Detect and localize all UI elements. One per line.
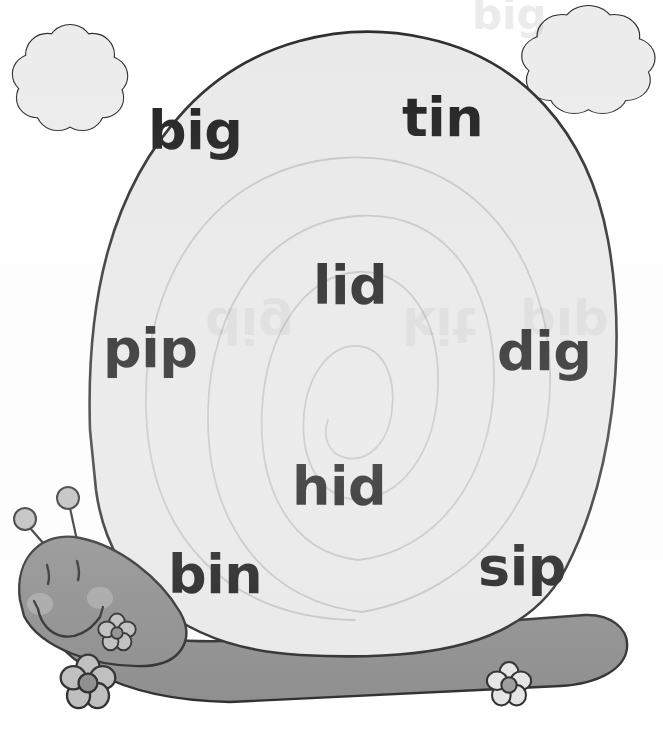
cheek-left <box>27 593 53 615</box>
antenna-right-ball <box>57 487 79 509</box>
shell-word-bin: bin <box>168 548 262 602</box>
cheek-right <box>87 587 113 609</box>
shell-word-lid: lid <box>313 259 387 313</box>
ghost-text-dig: dig <box>205 300 294 350</box>
ghost-text-top: big <box>472 0 547 36</box>
ghost-text-kit: kit <box>402 300 476 350</box>
shell-word-pip: pip <box>103 322 197 376</box>
worksheet-page: big dig kit pip big tin lid pip dig hid … <box>0 0 663 735</box>
shell-word-tin: tin <box>402 91 483 145</box>
shell-word-sip: sip <box>478 540 566 594</box>
cloud-left <box>13 25 127 130</box>
shell-word-dig: dig <box>497 325 591 379</box>
antenna-left-ball <box>14 508 36 530</box>
shell-word-big: big <box>148 104 242 158</box>
shell-word-hid: hid <box>292 460 386 514</box>
